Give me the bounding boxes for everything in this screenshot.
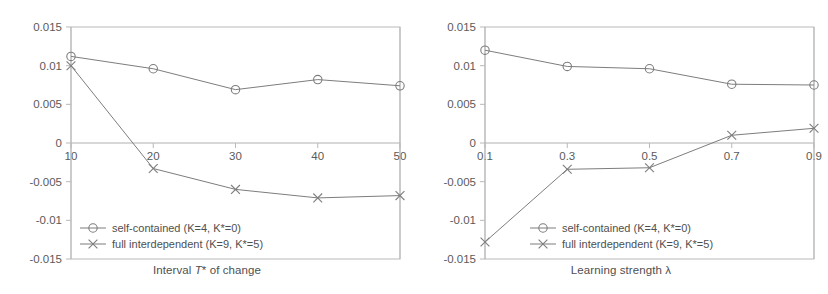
x-axis-title-right: Learning strength λ	[414, 264, 828, 276]
x-tick-label: 30	[229, 150, 242, 162]
legend-label: full interdependent (K=9, K*=5)	[112, 238, 263, 250]
legend-label: full interdependent (K=9, K*=5)	[562, 238, 713, 250]
y-tick-label: 0.015	[33, 21, 62, 33]
y-tick-label: -0.01	[36, 214, 62, 226]
x-axis-title-post-right: λ	[665, 264, 671, 276]
series-line	[485, 50, 814, 85]
y-tick-label: 0.01	[40, 60, 62, 72]
y-tick-label: 0.015	[447, 21, 476, 33]
chart-panel-left: 0.0150.010.0050-0.005-0.01-0.01510203040…	[0, 0, 414, 294]
legend-label: self-contained (K=4, K*=0)	[112, 222, 241, 234]
chart-panel-right: 0.0150.010.0050-0.005-0.01-0.0150.10.30.…	[414, 0, 828, 294]
y-tick-label: 0	[470, 137, 476, 149]
x-axis-title-italic-left: T	[195, 264, 202, 276]
chart-canvas-right: 0.0150.010.0050-0.005-0.01-0.0150.10.30.…	[414, 0, 828, 294]
x-axis-title-pre-right: Learning strength	[571, 264, 666, 276]
y-tick-label: -0.005	[443, 176, 476, 188]
two-panel-line-chart-figure: 0.0150.010.0050-0.005-0.01-0.01510203040…	[0, 0, 828, 294]
x-tick-label: 20	[147, 150, 160, 162]
chart-canvas-left: 0.0150.010.0050-0.005-0.01-0.01510203040…	[0, 0, 414, 294]
x-tick-label: 0.3	[559, 150, 575, 162]
x-axis-title-post-left: * of change	[202, 264, 261, 276]
series-line	[71, 56, 400, 89]
x-tick-label: 0.7	[724, 150, 740, 162]
legend-label: self-contained (K=4, K*=0)	[562, 222, 691, 234]
x-tick-label: 40	[311, 150, 324, 162]
x-axis-title-pre-left: Interval	[153, 264, 195, 276]
x-tick-label: 0.5	[642, 150, 658, 162]
y-tick-label: -0.005	[29, 176, 62, 188]
y-tick-label: -0.01	[450, 214, 476, 226]
y-tick-label: 0	[56, 137, 62, 149]
y-tick-label: 0.01	[454, 60, 476, 72]
y-tick-label: 0.005	[447, 98, 476, 110]
x-axis-title-left: Interval T* of change	[0, 264, 414, 276]
y-tick-label: 0.005	[33, 98, 62, 110]
